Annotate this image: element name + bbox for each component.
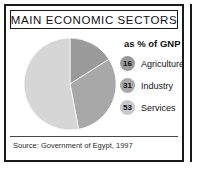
pie-chart-svg [22,36,118,132]
page-title: MAIN ECONOMIC SECTORS [11,14,177,26]
legend-item-label: Industry [141,81,173,91]
legend-item-label: Agriculture [141,59,184,69]
panel-body: as % of GNP 16 Agriculture 31 Industry 5… [10,32,178,132]
chart-legend: as % of GNP 16 Agriculture 31 Industry 5… [120,34,200,122]
pie-slice-group [24,38,116,130]
panel-title-box: MAIN ECONOMIC SECTORS [10,10,178,29]
source-note: Source: Government of Egypt, 1997 [13,141,133,150]
legend-heading: as % of GNP [124,38,200,49]
legend-item-industry: 31 Industry [120,78,200,93]
pie-chart [22,36,118,132]
source-divider [10,136,178,137]
legend-value-badge: 53 [120,100,135,115]
legend-item-agriculture: 16 Agriculture [120,56,200,71]
legend-value-badge: 31 [120,78,135,93]
legend-value-badge: 16 [120,56,135,71]
infographic-panel: MAIN ECONOMIC SECTORS as % of GNP 16 Agr… [4,4,184,162]
legend-item-services: 53 Services [120,100,200,115]
legend-item-label: Services [141,103,176,113]
